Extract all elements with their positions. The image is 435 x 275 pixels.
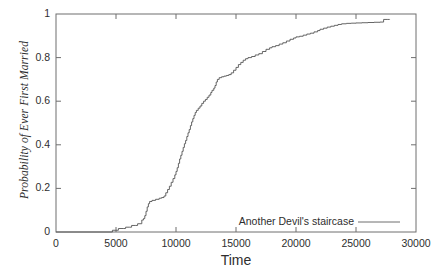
x-tick-label: 25000	[326, 237, 386, 249]
plot-frame-rect	[56, 14, 416, 232]
x-tick-label: 5000	[86, 237, 146, 249]
x-tick-label: 30000	[386, 237, 435, 249]
data-series-line	[56, 19, 390, 232]
y-tick-label: 0.4	[16, 138, 50, 150]
x-tick-label: 10000	[146, 237, 206, 249]
plot-area	[0, 0, 435, 275]
y-tick-label: 0.8	[16, 51, 50, 63]
data-series-group	[56, 19, 390, 232]
y-tick-label: 0.6	[16, 94, 50, 106]
axis-ticks	[56, 14, 416, 232]
chart-figure: Probability of Ever First Married Time 0…	[0, 0, 435, 275]
plot-frame	[56, 14, 416, 232]
y-tick-label: 1	[16, 7, 50, 19]
x-axis-title: Time	[56, 252, 416, 268]
x-tick-label: 15000	[206, 237, 266, 249]
x-tick-label: 0	[26, 237, 86, 249]
y-axis-title: Probability of Ever First Married	[18, 4, 36, 236]
y-tick-label: 0.2	[16, 181, 50, 193]
x-tick-label: 20000	[266, 237, 326, 249]
y-tick-label: 0	[16, 225, 50, 237]
legend-entry-label: Another Devil's staircase	[238, 215, 354, 227]
